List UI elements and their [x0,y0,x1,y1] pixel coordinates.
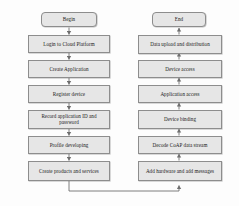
node-device-binding[interactable]: Device binding [138,110,222,129]
node-device-binding-label: Device binding [141,116,219,122]
node-record-application-id-and-password[interactable]: Record application ID and password [28,110,110,129]
node-profile-developing[interactable]: Profile developing [28,136,110,154]
node-create-application-label: Create Application [31,66,107,72]
node-create-products-and-services[interactable]: Create products and services [28,161,110,181]
node-add-hardware-and-add-messages[interactable]: Add hardware and add messages [138,161,222,181]
node-device-access-label: Device access [141,66,219,72]
node-register-device-label: Register device [31,91,107,97]
node-profile-developing-label: Profile developing [31,142,107,148]
node-create-application[interactable]: Create Application [28,60,110,78]
node-data-upload-and-distribution[interactable]: Data upload and distribution [138,35,222,54]
node-create-products-and-services-label: Create products and services [31,168,107,174]
node-decode-coap-data-stream[interactable]: Decode CoAP data stream [138,136,222,154]
node-begin-label: Begin [44,16,94,22]
node-login-to-cloud-platform[interactable]: Login to Cloud Platform [28,35,110,53]
node-register-device[interactable]: Register device [28,85,110,103]
node-data-upload-and-distribution-label: Data upload and distribution [141,41,219,47]
node-end-label: End [155,16,203,22]
flowchart-canvas: Begin Login to Cloud Platform Create App… [0,0,239,206]
node-login-to-cloud-platform-label: Login to Cloud Platform [31,41,107,47]
edge-create-products-to-add-hardware [69,181,179,192]
node-device-access[interactable]: Device access [138,60,222,78]
node-end[interactable]: End [152,12,206,27]
node-add-hardware-and-add-messages-label: Add hardware and add messages [141,168,219,174]
node-record-application-id-and-password-label: Record application ID and password [31,113,107,125]
node-application-access-label: Application access [141,91,219,97]
node-begin[interactable]: Begin [41,12,97,27]
node-decode-coap-data-stream-label: Decode CoAP data stream [141,142,219,148]
node-application-access[interactable]: Application access [138,85,222,103]
